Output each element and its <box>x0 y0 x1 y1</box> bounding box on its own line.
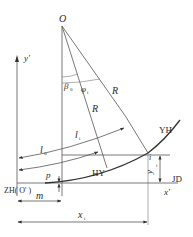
label-point-i: i <box>149 153 151 162</box>
beta0-arc <box>62 74 78 77</box>
label-l0: l <box>40 144 43 155</box>
label-xi: x <box>77 209 83 220</box>
label-m: m <box>36 190 43 201</box>
label-beta0-sub: 0 <box>70 87 73 92</box>
label-yi-sub: i <box>156 163 158 168</box>
label-radius-outer: R <box>111 85 118 96</box>
label-yh: YH <box>159 125 172 135</box>
label-phi: φ <box>81 84 86 94</box>
label-l0-sub: 0 <box>44 151 47 156</box>
label-p: p <box>45 170 51 180</box>
label-jd: JD <box>172 174 183 184</box>
label-zh: ZH( O' ) <box>4 186 32 195</box>
spiral-curve-diagram: O y' β 0 φ i R R l i l 0 YH HY i y i JD … <box>0 0 193 237</box>
label-yi: y <box>144 170 154 175</box>
label-y-axis: y' <box>23 53 31 63</box>
label-beta0: β <box>63 81 69 91</box>
label-xi-sub: i <box>84 216 86 221</box>
label-li: l <box>75 129 78 140</box>
radius-extension-line <box>126 117 148 153</box>
label-hy: HY <box>92 168 105 178</box>
y-axis-arrow-icon <box>15 55 19 62</box>
label-center-o: O <box>59 13 66 24</box>
label-radius-inner: R <box>91 103 98 114</box>
label-x-axis: x' <box>163 187 171 197</box>
label-phi-sub: i <box>87 90 89 95</box>
label-li-sub: i <box>79 136 81 141</box>
li-dimension <box>19 128 124 158</box>
